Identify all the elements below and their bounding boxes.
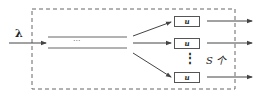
server-label: u bbox=[184, 17, 189, 26]
system-boundary bbox=[32, 9, 235, 89]
queue-ellipsis: ··· bbox=[73, 36, 81, 45]
server-box-1: u bbox=[174, 16, 200, 27]
server-label: u bbox=[184, 73, 189, 82]
dispatch-arrow-1 bbox=[133, 22, 171, 36]
server-count-label: S 个 bbox=[206, 52, 226, 67]
servers-ellipsis: ⋮ bbox=[184, 51, 196, 65]
dispatch-arrow-3 bbox=[133, 53, 171, 77]
server-label: u bbox=[184, 39, 189, 48]
server-box-2: u bbox=[174, 38, 200, 49]
diagram-canvas bbox=[0, 0, 260, 101]
arrival-rate-label: λ bbox=[15, 27, 23, 40]
server-box-3: u bbox=[174, 72, 200, 83]
